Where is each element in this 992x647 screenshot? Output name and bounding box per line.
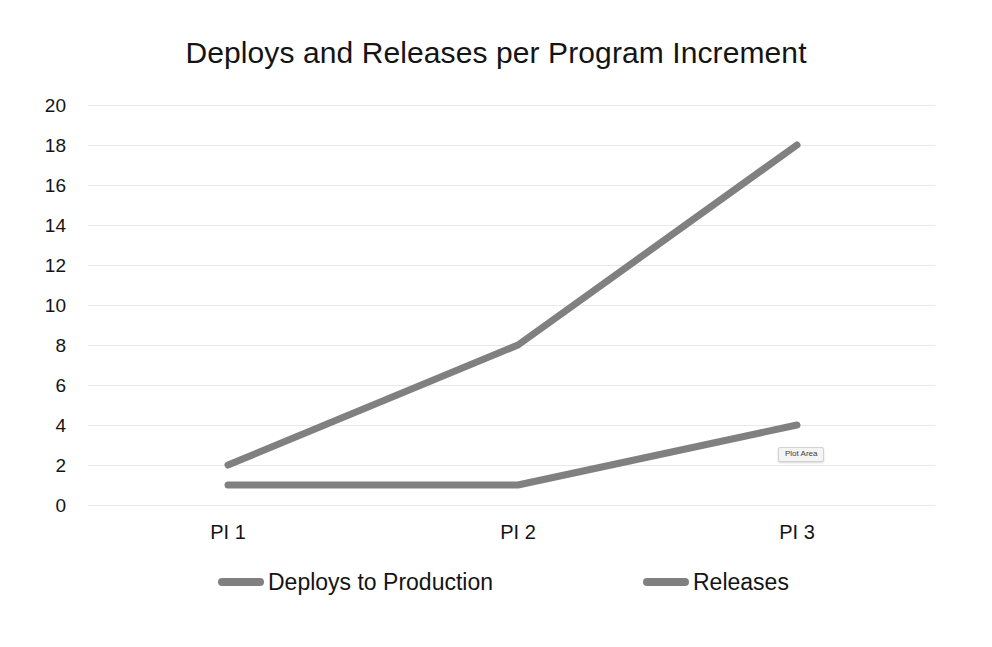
plot-area-tooltip: Plot Area xyxy=(778,447,824,462)
gridline xyxy=(88,225,935,226)
gridline xyxy=(88,185,935,186)
y-axis-tick-label: 16 xyxy=(6,176,66,195)
chart-container: Deploys and Releases per Program Increme… xyxy=(0,0,992,647)
gridline xyxy=(88,105,935,106)
gridline xyxy=(88,305,935,306)
y-axis-tick-label: 4 xyxy=(6,416,66,435)
gridline xyxy=(88,265,935,266)
y-axis-tick-label: 8 xyxy=(6,336,66,355)
x-axis-tick-label: PI 3 xyxy=(727,519,867,546)
x-axis: PI 1PI 2PI 3 xyxy=(0,519,992,551)
legend-item-deploys-to-production[interactable]: Deploys to Production xyxy=(218,567,493,597)
y-axis-tick-label: 10 xyxy=(6,296,66,315)
y-axis-tick-label: 0 xyxy=(6,496,66,515)
gridline xyxy=(88,465,935,466)
x-axis-tick-label: PI 1 xyxy=(158,519,298,546)
legend-swatch-icon xyxy=(218,578,264,586)
gridline xyxy=(88,385,935,386)
legend-label: Releases xyxy=(693,571,789,594)
y-axis-tick-label: 12 xyxy=(6,256,66,275)
gridline xyxy=(88,425,935,426)
legend-label: Deploys to Production xyxy=(268,571,493,594)
legend-swatch-icon xyxy=(643,578,689,586)
y-axis-tick-label: 18 xyxy=(6,136,66,155)
gridline xyxy=(88,345,935,346)
y-axis-tick-label: 14 xyxy=(6,216,66,235)
y-axis-tick-label: 20 xyxy=(6,96,66,115)
chart-legend: Deploys to Production Releases xyxy=(0,567,992,601)
y-axis-tick-label: 2 xyxy=(6,456,66,475)
gridline xyxy=(88,145,935,146)
gridline xyxy=(88,505,935,506)
chart-title: Deploys and Releases per Program Increme… xyxy=(0,36,992,70)
legend-item-releases[interactable]: Releases xyxy=(643,567,789,597)
y-axis-tick-label: 6 xyxy=(6,376,66,395)
x-axis-tick-label: PI 2 xyxy=(448,519,588,546)
